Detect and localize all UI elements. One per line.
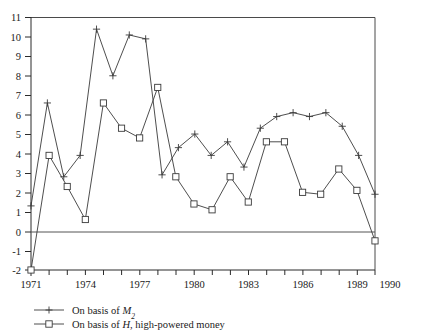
y-tick-label: 9 [16,51,21,62]
legend-entry-h[interactable]: On basis of H, high-powered money [34,319,226,330]
y-tick-label: 7 [16,90,21,101]
series-m2 [27,26,378,210]
data-point-square [263,139,269,145]
y-tick-label: -1 [12,246,21,257]
y-axis-tick-labels: 11 10 9 8 7 6 5 4 3 2 1 0 -1 -2 [11,12,22,276]
data-point-plus [126,31,133,38]
x-tick-label: 1980 [184,279,205,290]
data-point-plus [240,163,247,170]
x-tick-label: 1983 [238,279,259,290]
data-point-plus [290,109,297,116]
data-point-plus [27,202,34,209]
data-point-square [173,174,179,180]
x-tick-label: 1971 [21,279,42,290]
y-axis: 11 10 9 8 7 6 5 4 3 2 1 0 -1 -2 [11,12,32,276]
data-point-plus [355,152,362,159]
y-tick-label: 4 [16,149,22,160]
y-tick-label: 0 [16,227,21,238]
data-point-square [155,84,161,90]
chart-figure: 11 10 9 8 7 6 5 4 3 2 1 0 -1 -2 [0,0,421,336]
y-tick-label: 2 [16,188,21,199]
x-tick-label: 1990 [380,279,401,290]
data-point-plus [273,113,280,120]
data-point-plus [109,72,116,79]
data-point-square [245,199,251,205]
x-tick-label: 1977 [129,279,150,290]
y-axis-ticks [25,18,31,271]
data-point-plus [93,26,100,33]
y-tick-label: 1 [16,207,21,218]
data-point-square [318,191,324,197]
data-point-square [191,201,197,207]
x-axis-ticks [31,270,375,276]
data-point-square [46,152,52,158]
data-point-square [118,125,124,131]
data-point-square [354,187,360,193]
legend-label-h: On basis of H, high-powered money [72,319,226,330]
y-tick-label: -2 [12,265,21,276]
data-point-square [299,189,305,195]
data-point-square [64,183,70,189]
data-point-square [372,238,378,244]
x-tick-label: 1989 [347,279,368,290]
data-series-layer [27,26,378,274]
data-point-square [28,267,34,273]
x-tick-label: 1974 [75,279,97,290]
y-tick-label: 8 [16,71,21,82]
legend: On basis of M2 On basis of H, high-power… [34,305,226,330]
square-marker-icon [46,321,52,327]
data-point-square [82,216,88,222]
x-axis-tick-labels: 1971 1974 1977 1980 1983 1986 1989 1990 [21,279,401,290]
data-point-plus [44,99,51,106]
series-line [31,87,375,270]
line-chart-svg: 11 10 9 8 7 6 5 4 3 2 1 0 -1 -2 [0,0,421,336]
data-point-square [281,139,287,145]
plus-marker-icon [46,307,53,314]
data-point-plus [142,35,149,42]
data-point-plus [158,171,165,178]
data-point-square [336,166,342,172]
data-point-square [227,174,233,180]
x-tick-label: 1986 [292,279,313,290]
data-point-plus [77,152,84,159]
data-point-plus [257,125,264,132]
series-line [31,29,375,206]
data-point-plus [371,191,378,198]
data-point-plus [306,113,313,120]
y-tick-label: 6 [16,110,21,121]
x-axis: 1971 1974 1977 1980 1983 1986 1989 1990 [21,270,401,290]
y-tick-label: 3 [16,168,21,179]
data-point-square [209,207,215,213]
data-point-square [100,100,106,106]
y-tick-label: 10 [11,32,22,43]
y-tick-label: 5 [16,129,21,140]
data-point-square [137,135,143,141]
y-tick-label: 11 [11,12,21,23]
